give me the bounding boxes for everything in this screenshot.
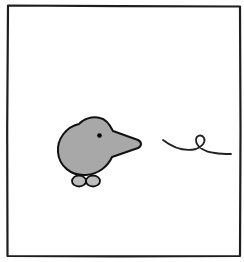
bird-right-foot — [86, 176, 100, 187]
bird-eye — [97, 133, 102, 138]
comic-panel — [0, 0, 244, 262]
panel-frame — [7, 6, 240, 257]
bird-left-foot — [72, 176, 86, 187]
